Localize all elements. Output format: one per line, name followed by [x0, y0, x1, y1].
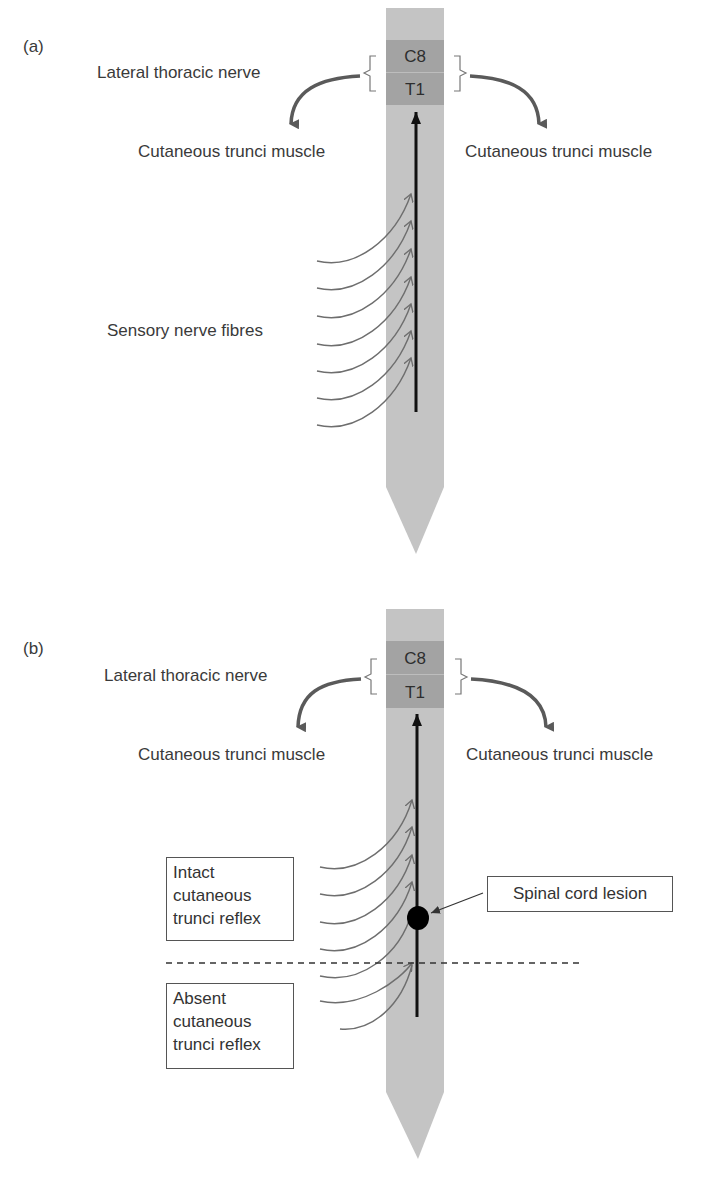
- intact-reflex-line-1: Intact: [173, 861, 287, 884]
- lesion-label: Spinal cord lesion: [488, 880, 672, 908]
- segment-label-c8: C8: [386, 650, 444, 667]
- nerve-label: Lateral thoracic nerve: [104, 667, 267, 684]
- lesion-dot: [407, 906, 429, 930]
- panel-b: (b) C8 T1 Lateral thoracic nerve Cutaneo…: [0, 0, 708, 1178]
- intact-reflex-line-2: cutaneous: [173, 884, 287, 907]
- right-target-label: Cutaneous trunci muscle: [466, 746, 653, 763]
- right-bracket-icon: [455, 659, 467, 694]
- lesion-label-box: Spinal cord lesion: [487, 876, 673, 912]
- left-bracket-icon: [365, 659, 377, 694]
- absent-reflex-box: Absent cutaneous trunci reflex: [166, 983, 294, 1069]
- absent-reflex-line-1: Absent: [173, 987, 287, 1010]
- left-nerve-arrow-icon: [298, 679, 361, 727]
- absent-reflex-line-2: cutaneous: [173, 1010, 287, 1033]
- intact-reflex-box: Intact cutaneous trunci reflex: [166, 857, 294, 941]
- segment-label-t1: T1: [386, 684, 444, 701]
- panel-b-drawing: [0, 0, 708, 1178]
- panel-label: (b): [23, 640, 44, 657]
- right-nerve-arrow-icon: [471, 679, 546, 727]
- left-target-label: Cutaneous trunci muscle: [138, 746, 325, 763]
- intact-reflex-line-3: trunci reflex: [173, 907, 287, 930]
- absent-reflex-line-3: trunci reflex: [173, 1033, 287, 1056]
